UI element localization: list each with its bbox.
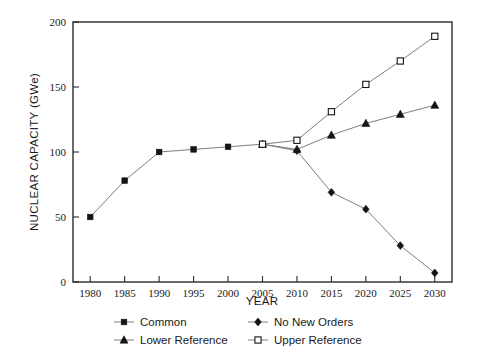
y-tick-label: 100 [50, 146, 67, 158]
data-point-marker [363, 81, 369, 87]
x-tick-label: 2030 [424, 287, 447, 299]
x-tick-label: 2010 [286, 287, 309, 299]
y-tick-label: 150 [50, 81, 67, 93]
y-axis-title-text: NUCLEAR CAPACITY (GWe) [28, 73, 40, 231]
x-axis-title-text: YEAR [246, 295, 279, 307]
x-tick-label: 2025 [389, 287, 412, 299]
x-tick-label: 1980 [79, 287, 102, 299]
data-point-marker [121, 319, 127, 325]
nuclear-capacity-line-chart: NUCLEAR CAPACITY (GWe) 050100150200 1980… [0, 0, 480, 359]
data-point-marker [432, 33, 438, 39]
x-tick-label: 1990 [148, 287, 171, 299]
x-tick-label: 2020 [355, 287, 378, 299]
data-point-marker [156, 149, 162, 155]
legend-item-label: Lower Reference [140, 334, 228, 346]
x-tick-label: 2000 [217, 287, 240, 299]
data-point-marker [87, 214, 93, 220]
data-point-marker [255, 337, 261, 343]
x-tick-label: 1995 [183, 287, 206, 299]
legend-item-label: Common [140, 316, 187, 328]
data-point-marker [122, 178, 128, 184]
chart-figure: NUCLEAR CAPACITY (GWe) 050100150200 1980… [0, 0, 480, 359]
y-tick-label: 200 [50, 16, 67, 28]
y-axis-title: NUCLEAR CAPACITY (GWe) [28, 73, 40, 231]
data-point-marker [294, 137, 300, 143]
x-tick-label: 1985 [114, 287, 137, 299]
data-point-marker [191, 147, 197, 153]
legend-item-label: No New Orders [274, 316, 353, 328]
data-point-marker [328, 109, 334, 115]
chart-background [0, 0, 480, 359]
data-point-marker [259, 141, 265, 147]
y-tick-label: 50 [55, 211, 67, 223]
x-tick-label: 2015 [320, 287, 343, 299]
legend-item-label: Upper Reference [274, 334, 362, 346]
data-point-marker [397, 58, 403, 64]
y-tick-label: 0 [61, 276, 67, 288]
data-point-marker [225, 144, 231, 150]
